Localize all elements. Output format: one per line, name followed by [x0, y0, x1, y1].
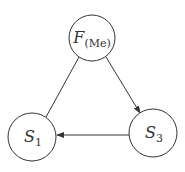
- edge-f-to-s3: [106, 57, 140, 113]
- edge-f-to-s1: [46, 57, 79, 117]
- node-f-me-label: F(Me): [73, 28, 110, 50]
- node-s1-label: S1: [24, 127, 42, 149]
- node-s3-label: S3: [145, 123, 163, 145]
